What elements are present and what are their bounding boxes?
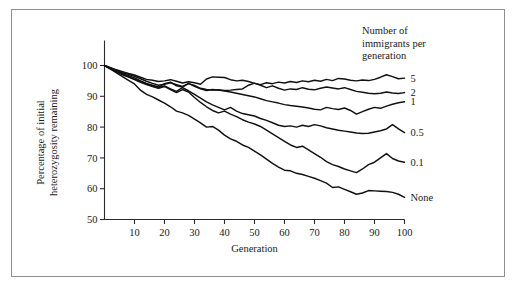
x-axis-title: Generation xyxy=(231,243,278,254)
x-tick-label-80: 80 xyxy=(339,227,350,238)
x-tick-label-40: 40 xyxy=(219,227,230,238)
series-label-0.5: 0.5 xyxy=(411,127,424,138)
y-tick-label-100: 100 xyxy=(82,60,98,71)
x-tick-label-100: 100 xyxy=(397,227,413,238)
y-tick-label-90: 90 xyxy=(87,91,98,102)
series-label-1: 1 xyxy=(411,96,416,107)
legend-title-line-1: Number of xyxy=(362,25,408,36)
legend-title-line-2: immigrants per xyxy=(362,38,426,49)
series-line-1 xyxy=(105,66,405,115)
series-label-0.1: 0.1 xyxy=(411,157,424,168)
y-tick-label-50: 50 xyxy=(87,214,98,225)
y-tick-label-70: 70 xyxy=(87,153,98,164)
x-tick-label-20: 20 xyxy=(159,227,170,238)
chart-axes xyxy=(105,41,405,220)
heterozygosity-line-chart: 5060708090100102030405060708090100Genera… xyxy=(0,0,530,295)
x-tick-label-50: 50 xyxy=(249,227,260,238)
x-tick-label-90: 90 xyxy=(369,227,380,238)
y-axis-title-line-1: Percentage of initial xyxy=(35,100,46,185)
series-label-5: 5 xyxy=(411,73,416,84)
series-label-None: None xyxy=(411,192,434,203)
y-tick-label-60: 60 xyxy=(87,183,98,194)
legend-title-line-3: generation xyxy=(362,50,407,61)
x-tick-label-70: 70 xyxy=(309,227,320,238)
y-axis-title-line-2: heterozygosity remaining xyxy=(48,88,59,196)
x-tick-label-10: 10 xyxy=(129,227,140,238)
y-tick-label-80: 80 xyxy=(87,122,98,133)
x-tick-label-60: 60 xyxy=(279,227,290,238)
figure-container: 5060708090100102030405060708090100Genera… xyxy=(0,0,530,295)
x-tick-label-30: 30 xyxy=(189,227,200,238)
